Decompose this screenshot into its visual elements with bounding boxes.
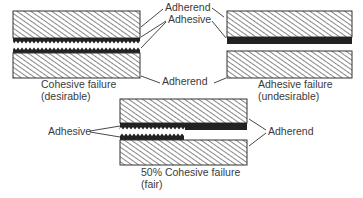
- cohesive-caption-line1: Cohesive failure: [41, 78, 116, 90]
- label-adhesive-top: Adhesive: [168, 13, 211, 25]
- cohesive-caption-line2: (desirable): [41, 90, 91, 102]
- upper-adherend: [13, 11, 140, 38]
- leader-adherend-top-right: [212, 8, 224, 17]
- lower-adhesive-layer: [13, 48, 140, 54]
- mixed-caption-line1: 50% Cohesive failure: [141, 166, 240, 178]
- leader-adherend-bottom-1: [249, 119, 266, 130]
- lower-adherend: [120, 140, 247, 165]
- label-adherend-bottom: Adherend: [268, 125, 314, 137]
- upper-adherend: [227, 11, 352, 37]
- leader-adherend-bottom-2: [249, 133, 266, 146]
- lower-adherend: [13, 53, 140, 78]
- lower-adherend: [227, 51, 352, 78]
- label-adherend-middle: Adherend: [162, 75, 208, 87]
- mixed-caption-line2: (fair): [141, 178, 163, 190]
- mixed-failure-panel: 50% Cohesive failure (fair) Adhesive Adh…: [48, 99, 314, 190]
- adhesive-caption-line2: (undesirable): [258, 90, 319, 102]
- top-labels: Adherend Adhesive Adherend: [141, 1, 226, 87]
- leader-adhesive-bottom-1: [90, 126, 120, 131]
- cohesive-failure-panel: Cohesive failure (desirable): [13, 11, 140, 102]
- adhesive-layer: [227, 37, 352, 44]
- adhesive-failure-panel: Adhesive failure (undesirable): [227, 11, 352, 102]
- adhesive-failure-diagram: Cohesive failure (desirable) Adhesive fa…: [0, 0, 363, 198]
- lower-adhesive-layer: [120, 134, 184, 141]
- leader-adherend-top-left: [141, 9, 163, 27]
- upper-adherend: [120, 99, 247, 123]
- upper-adhesive-layer: [13, 38, 140, 44]
- leader-adherend-mid-left: [141, 76, 160, 83]
- label-adhesive-bottom: Adhesive: [48, 125, 91, 137]
- leader-adherend-mid-right: [214, 78, 226, 83]
- adhesive-caption-line1: Adhesive failure: [258, 78, 333, 90]
- leader-adhesive-bottom-2: [90, 132, 120, 137]
- label-adherend-top: Adherend: [165, 1, 211, 13]
- upper-adhesive-layer: [119, 123, 247, 130]
- leader-adhesive-right: [212, 21, 226, 38]
